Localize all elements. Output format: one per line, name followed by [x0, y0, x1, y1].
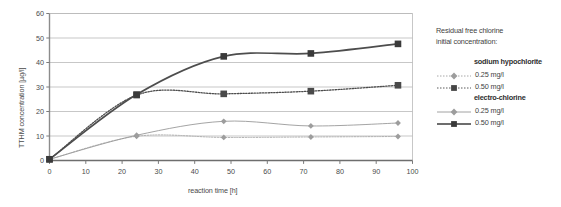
legend-group-heading-sodium-hypochlorite: sodium hypochlorite — [474, 56, 561, 68]
legend-key-dotted-square-icon — [436, 80, 472, 92]
data-point-marker — [46, 156, 53, 163]
data-point-marker — [308, 134, 314, 140]
y-tick-label: 40 — [36, 58, 44, 67]
legend-item-electro-chlorine-025[interactable]: 0.25 mg/l — [436, 104, 561, 116]
legend-key-solid-square-icon — [436, 116, 472, 128]
y-tick-label: 0 — [40, 156, 44, 165]
x-tick-label: 50 — [227, 167, 235, 176]
legend-key-dotted-diamond-icon — [436, 68, 472, 80]
y-axis-label: TTHM concentration [µg/l] — [17, 68, 26, 148]
chart-figure: 01020304050600102030405060708090100 TTHM… — [0, 0, 561, 207]
y-tick-label: 20 — [36, 107, 44, 116]
chart-legend: Residual free chlorine initial concentra… — [436, 26, 561, 128]
y-tick-label: 60 — [36, 9, 44, 18]
chart-canvas: 01020304050600102030405060708090100 — [0, 0, 430, 207]
series-1 — [47, 133, 401, 162]
data-point-marker — [308, 123, 314, 129]
legend-label-electro-chlorine-025: 0.25 mg/l — [475, 106, 504, 115]
data-point-marker — [395, 134, 401, 140]
data-point-marker — [221, 118, 227, 124]
legend-title-line2: initial concentration: — [436, 37, 561, 48]
legend-label-sodium-hypochlorite-050: 0.50 mg/l — [475, 82, 504, 91]
legend-key-solid-diamond-icon — [436, 104, 472, 116]
x-axis-label: reaction time [h] — [188, 186, 237, 195]
x-tick-label: 0 — [48, 167, 52, 176]
data-point-marker — [220, 91, 227, 98]
x-tick-label: 20 — [118, 167, 126, 176]
x-tick-label: 80 — [336, 167, 344, 176]
series-line — [50, 44, 398, 159]
data-point-marker — [134, 132, 140, 138]
x-tick-label: 70 — [300, 167, 308, 176]
y-tick-label: 30 — [36, 83, 44, 92]
data-point-marker — [395, 41, 402, 48]
legend-spacer — [436, 47, 561, 56]
legend-item-sodium-hypochlorite-025[interactable]: 0.25 mg/l — [436, 68, 561, 80]
data-point-marker — [395, 82, 402, 89]
data-point-marker — [220, 53, 227, 60]
y-tick-label: 50 — [36, 34, 44, 43]
data-point-marker — [308, 88, 315, 95]
legend-title-line1: Residual free chlorine — [436, 26, 561, 37]
plot-area: 01020304050600102030405060708090100 TTHM… — [0, 0, 430, 207]
x-tick-label: 90 — [372, 167, 380, 176]
x-tick-label: 30 — [154, 167, 162, 176]
y-tick-label: 10 — [36, 132, 44, 141]
x-tick-label: 60 — [263, 167, 271, 176]
legend-label-sodium-hypochlorite-025: 0.25 mg/l — [475, 70, 504, 79]
data-point-marker — [395, 120, 401, 126]
legend-item-sodium-hypochlorite-050[interactable]: 0.50 mg/l — [436, 80, 561, 92]
legend-label-electro-chlorine-050: 0.50 mg/l — [475, 118, 504, 127]
x-tick-label: 10 — [82, 167, 90, 176]
data-point-marker — [308, 50, 315, 57]
legend-item-electro-chlorine-050[interactable]: 0.50 mg/l — [436, 116, 561, 128]
data-point-marker — [221, 135, 227, 141]
legend-group-heading-electro-chlorine: electro-chlorine — [474, 92, 561, 104]
data-point-marker — [133, 91, 140, 98]
x-tick-label: 100 — [407, 167, 419, 176]
x-tick-label: 40 — [191, 167, 199, 176]
